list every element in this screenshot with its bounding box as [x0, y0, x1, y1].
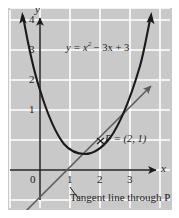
- x-axis-label: x: [161, 163, 166, 174]
- plot-panel: y x 4 3 2 1 0 1 2 3 y = x2 − 3x + 3 P = …: [8, 8, 172, 210]
- tangent-caption: Tangent line through P: [70, 192, 170, 203]
- y-tick-2: 2: [29, 74, 35, 85]
- y-axis-label: y: [35, 4, 40, 15]
- x-tick-3: 3: [127, 174, 133, 185]
- y-tick-4: 4: [29, 14, 35, 25]
- x-tick-0: 0: [30, 174, 36, 185]
- point-p-marker: [97, 138, 104, 144]
- y-tick-3: 3: [29, 44, 35, 55]
- equation-suffix: − 3x + 3: [91, 42, 129, 53]
- point-p-label: P = (2, 1): [105, 134, 146, 145]
- equation-prefix: y = x: [66, 42, 88, 53]
- x-tick-1: 1: [67, 174, 73, 185]
- equation-label: y = x2 − 3x + 3: [66, 41, 129, 53]
- tangent-line-figure: y x 4 3 2 1 0 1 2 3 y = x2 − 3x + 3 P = …: [0, 0, 179, 218]
- x-tick-2: 2: [97, 174, 103, 185]
- y-tick-1: 1: [29, 104, 35, 115]
